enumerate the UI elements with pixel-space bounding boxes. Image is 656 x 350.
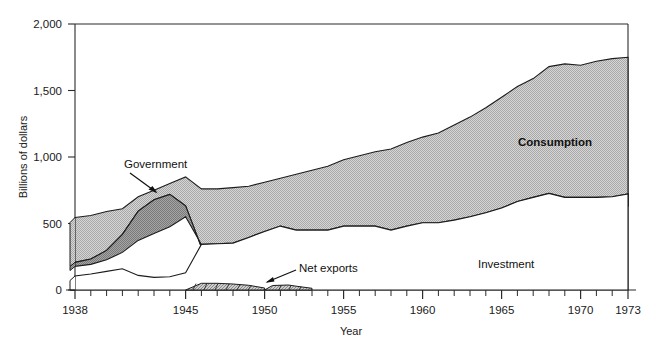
x-tick-label: 1965: [489, 304, 515, 316]
x-tick-label: 1955: [331, 304, 357, 316]
chart-figure: 2,000 1,500 1,000 500 0 Billions of doll…: [0, 0, 656, 350]
annotation-government-arrow: [130, 173, 158, 193]
annotation-consumption-label: Consumption: [518, 136, 592, 148]
y-tick-label: 500: [43, 218, 62, 230]
x-tick-label: 1945: [173, 304, 199, 316]
y-tick-label: 1,500: [33, 85, 62, 97]
annotation-net-exports-label: Net exports: [299, 262, 358, 274]
x-tick-label: 1970: [568, 304, 594, 316]
y-tick-label: 2,000: [33, 18, 62, 30]
x-axis-title: Year: [340, 325, 363, 337]
y-tick-label: 1,000: [33, 151, 62, 163]
x-tick-label: 1950: [252, 304, 278, 316]
annotation-government-label: Government: [124, 158, 188, 170]
x-axis-major-ticks: [75, 290, 628, 299]
y-axis-tick-labels: 2,000 1,500 1,000 500 0: [33, 18, 62, 296]
x-tick-label: 1973: [615, 304, 641, 316]
x-axis-minor-ticks: [91, 290, 612, 296]
y-axis-title: Billions of dollars: [17, 115, 29, 198]
left-face-3d: [70, 218, 75, 291]
x-axis-tick-labels: 1938 1945 1950 1955 1960 1965 1970 1973: [62, 304, 641, 316]
x-tick-label: 1938: [62, 304, 88, 316]
x-tick-label: 1960: [410, 304, 436, 316]
annotation-investment-label: Investment: [478, 258, 535, 270]
area-chart-svg: 2,000 1,500 1,000 500 0 Billions of doll…: [0, 0, 656, 350]
y-tick-label: 0: [56, 284, 62, 296]
